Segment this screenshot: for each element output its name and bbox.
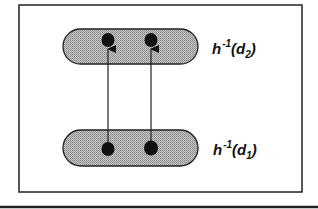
lower-set-label: h-1(d1) xyxy=(213,141,257,158)
label-close-paren: ) xyxy=(251,40,256,57)
upper-point-1 xyxy=(102,33,115,47)
label-base: h xyxy=(213,141,222,158)
label-base: h xyxy=(212,40,221,57)
lower-point-2 xyxy=(144,141,158,156)
label-subscript: 2 xyxy=(245,49,251,60)
label-close-paren: ) xyxy=(252,141,257,158)
label-superscript: -1 xyxy=(223,139,232,150)
label-subscript: 1 xyxy=(246,150,252,161)
diagram-canvas xyxy=(0,0,318,209)
lower-point-1 xyxy=(102,142,115,156)
lower-set-pill xyxy=(63,130,198,166)
upper-set-label: h-1(d2) xyxy=(212,40,256,57)
label-superscript: -1 xyxy=(222,38,231,49)
label-arg: d xyxy=(236,40,245,57)
label-arg: d xyxy=(237,141,246,158)
upper-set-pill xyxy=(63,29,198,64)
upper-point-2 xyxy=(145,33,158,47)
